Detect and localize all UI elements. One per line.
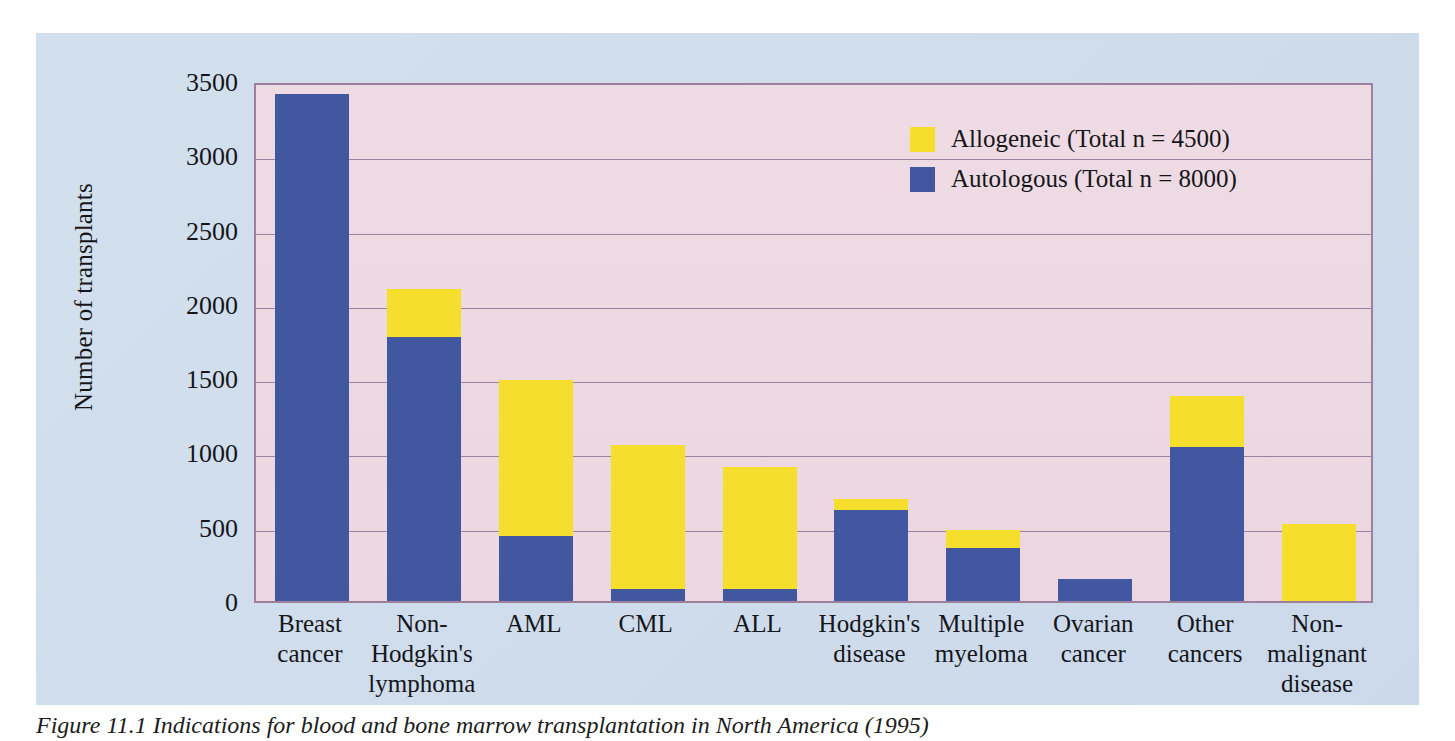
bar-segment-autologous — [387, 337, 461, 601]
legend-item-autologous: Autologous (Total n = 8000) — [910, 161, 1237, 197]
chart-legend: Allogeneic (Total n = 4500) Autologous (… — [910, 121, 1237, 201]
bar-cml — [611, 445, 685, 601]
x-axis-tick-labels: BreastcancerNon-Hodgkin'slymphomaAMLCMLA… — [254, 609, 1373, 709]
x-axis-tick-label: Non-malignantdisease — [1245, 609, 1389, 699]
bar-segment-autologous — [275, 94, 349, 601]
y-axis-tick-label: 1500 — [128, 367, 238, 393]
bar-segment-autologous — [723, 589, 797, 601]
autologous-swatch-icon — [910, 167, 935, 192]
bar-segment-autologous — [1058, 579, 1132, 601]
x-axis-tick-label-line: malignant — [1245, 639, 1389, 669]
legend-label-allogeneic: Allogeneic (Total n = 4500) — [951, 125, 1230, 153]
bar-hodgkin-s-disease — [834, 499, 908, 602]
bar-segment-allogeneic — [1170, 396, 1244, 447]
y-axis-title: Number of transplants — [70, 147, 98, 447]
allogeneic-swatch-icon — [910, 127, 935, 152]
y-axis-tick-label: 3500 — [128, 70, 238, 96]
y-axis-tick-label: 2500 — [128, 219, 238, 245]
y-axis-tick-label: 2000 — [128, 293, 238, 319]
bar-segment-allogeneic — [723, 467, 797, 589]
legend-item-allogeneic: Allogeneic (Total n = 4500) — [910, 121, 1237, 157]
bar-segment-autologous — [1170, 447, 1244, 602]
bar-segment-allogeneic — [387, 289, 461, 337]
figure-caption: Figure 11.1 Indications for blood and bo… — [36, 712, 929, 739]
bar-non-hodgkin-s-lymphoma — [387, 289, 461, 601]
x-axis-tick-label-line: Hodgkin's — [350, 639, 494, 669]
bar-aml — [499, 380, 573, 601]
bar-segment-autologous — [834, 510, 908, 601]
bar-breast-cancer — [275, 94, 349, 601]
bar-ovarian-cancer — [1058, 579, 1132, 601]
x-axis-tick-label-line: Non- — [1245, 609, 1389, 639]
bar-non-malignant-disease — [1282, 524, 1356, 601]
y-axis-tick-label: 1000 — [128, 441, 238, 467]
figure-panel: Number of transplants 050010001500200025… — [36, 33, 1419, 705]
bar-segment-autologous — [611, 589, 685, 601]
bar-segment-allogeneic — [946, 530, 1020, 549]
bar-segment-autologous — [499, 536, 573, 601]
bar-segment-autologous — [946, 548, 1020, 601]
bar-segment-allogeneic — [611, 445, 685, 589]
bar-segment-allogeneic — [834, 499, 908, 511]
plot-area: Allogeneic (Total n = 4500) Autologous (… — [254, 83, 1373, 603]
bar-segment-allogeneic — [499, 380, 573, 536]
legend-label-autologous: Autologous (Total n = 8000) — [951, 165, 1237, 193]
y-axis-tick-label: 3000 — [128, 144, 238, 170]
y-axis-tick-label: 500 — [128, 516, 238, 542]
bar-multiple-myeloma — [946, 530, 1020, 601]
y-axis-tick-label: 0 — [128, 590, 238, 616]
x-axis-tick-label-line: disease — [1245, 669, 1389, 699]
bar-other-cancers — [1170, 396, 1244, 601]
bar-all — [723, 467, 797, 601]
bar-segment-allogeneic — [1282, 524, 1356, 601]
x-axis-tick-label-line: lymphoma — [350, 669, 494, 699]
